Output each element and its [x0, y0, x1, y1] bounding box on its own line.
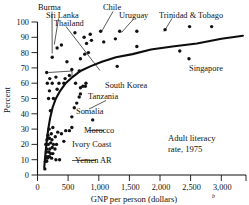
data-point — [48, 89, 51, 92]
data-point — [45, 147, 48, 150]
x-axis-ticks — [38, 175, 247, 181]
note-line-2: rate, 1975 — [168, 144, 202, 154]
label-thailand: Thailand — [54, 19, 85, 28]
label-tanzania: Tanzania — [88, 92, 118, 101]
data-point — [70, 126, 73, 129]
data-point — [84, 82, 87, 85]
literacy-gnp-scatter-figure: 100 90 80 70 60 50 40 30 20 10 0 0 500 1 — [0, 0, 249, 205]
data-point — [51, 55, 54, 58]
label-trinidad: Trinidad & Tobago — [159, 11, 223, 20]
label-morocco: Morocco — [84, 126, 114, 135]
x-axis-title-main: GNP per person (dollars) — [91, 194, 177, 204]
data-point — [56, 130, 59, 133]
data-point — [102, 40, 105, 43]
data-point — [47, 127, 50, 130]
data-point — [210, 25, 213, 28]
data-point — [68, 129, 71, 132]
data-point — [83, 52, 86, 55]
data-point — [78, 95, 81, 98]
data-point — [75, 101, 78, 104]
data-point — [70, 68, 73, 71]
data-point — [51, 126, 54, 129]
y-tick-80: 80 — [21, 49, 29, 58]
data-point — [60, 132, 63, 135]
data-point — [73, 31, 76, 34]
data-point — [91, 118, 94, 121]
data-point — [70, 115, 73, 118]
y-tick-60: 60 — [21, 79, 29, 88]
data-point — [135, 45, 138, 48]
data-point — [178, 49, 181, 52]
data-point — [54, 75, 57, 78]
x-tick-2500: 2,500 — [182, 183, 201, 192]
data-point — [64, 129, 67, 132]
y-tick-20: 20 — [21, 140, 29, 149]
data-point — [114, 37, 117, 40]
data-point — [135, 29, 138, 32]
data-point — [46, 82, 49, 85]
leader-thailand — [66, 27, 100, 71]
data-point — [51, 82, 54, 85]
data-point — [50, 132, 53, 135]
data-point — [55, 88, 58, 91]
label-ivory-coast: Ivory Coast — [72, 140, 112, 149]
data-point — [79, 57, 82, 60]
label-south-korea: South Korea — [105, 81, 147, 90]
x-axis-title: GNP per person (dollars) b — [91, 193, 215, 204]
x-axis-tick-labels: 0 500 1,000 1,500 2,000 2,500 3,000 — [35, 183, 231, 192]
label-singapore: Singapore — [189, 64, 223, 73]
x-tick-2000: 2,000 — [152, 183, 171, 192]
x-tick-0: 0 — [35, 183, 39, 192]
chart-note: Adult literacy rate, 1975 — [168, 133, 216, 154]
data-point — [48, 77, 51, 80]
data-point — [46, 134, 49, 137]
data-point — [188, 25, 191, 28]
leader-trinidad — [164, 19, 172, 32]
y-tick-30: 30 — [21, 125, 29, 134]
data-point — [45, 160, 48, 163]
y-tick-100: 100 — [17, 18, 29, 27]
data-point — [54, 135, 57, 138]
leader-chile — [101, 12, 113, 33]
data-point — [45, 71, 48, 74]
y-tick-90: 90 — [21, 33, 29, 42]
data-point — [52, 97, 55, 100]
y-tick-70: 70 — [21, 64, 29, 73]
y-tick-50: 50 — [21, 95, 29, 104]
chart-canvas: 100 90 80 70 60 50 40 30 20 10 0 0 500 1 — [0, 0, 249, 205]
x-tick-3000: 3,000 — [213, 183, 232, 192]
y-tick-0: 0 — [25, 171, 29, 180]
data-point — [49, 109, 52, 112]
data-point — [54, 158, 57, 161]
data-point — [58, 158, 61, 161]
data-point — [65, 60, 68, 63]
data-point — [187, 57, 190, 60]
data-point — [63, 77, 66, 80]
data-point — [47, 97, 50, 100]
leader-somalia-1 — [49, 71, 73, 73]
data-point — [118, 29, 121, 32]
y-axis-tick-labels: 100 90 80 70 60 50 40 30 20 10 0 — [17, 18, 29, 180]
data-point — [85, 42, 88, 45]
data-point — [74, 82, 77, 85]
x-tick-1000: 1,000 — [90, 183, 109, 192]
x-tick-500: 500 — [62, 183, 74, 192]
data-point — [50, 156, 53, 159]
note-line-1: Adult literacy — [168, 133, 216, 143]
label-uruguay: Uruguay — [119, 11, 149, 20]
y-tick-40: 40 — [21, 110, 29, 119]
data-point — [84, 85, 87, 88]
data-point — [52, 143, 55, 146]
y-axis-title: Percent — [2, 87, 12, 113]
data-point — [68, 74, 71, 77]
data-point — [116, 65, 119, 68]
label-yemen: Yemen AR — [75, 156, 112, 165]
data-point — [82, 36, 85, 39]
data-point — [55, 143, 58, 146]
data-point — [89, 33, 92, 36]
x-axis-title-superscript: b — [212, 193, 215, 199]
leader-uruguay — [122, 19, 135, 33]
data-point — [51, 152, 54, 155]
y-tick-10: 10 — [21, 156, 29, 165]
data-point — [62, 140, 65, 143]
